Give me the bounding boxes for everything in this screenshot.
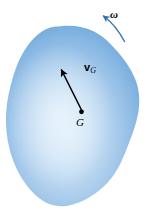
angular-velocity-label: ω bbox=[110, 9, 118, 20]
rigid-body-shape bbox=[6, 26, 139, 206]
center-of-mass-label: G bbox=[76, 117, 84, 128]
velocity-vector-label: vG bbox=[84, 62, 96, 75]
blob-highlight bbox=[6, 26, 139, 206]
velocity-subscript: G bbox=[90, 66, 96, 75]
figure-canvas bbox=[0, 0, 149, 213]
center-of-mass-dot bbox=[79, 109, 84, 114]
rigid-body-figure: vG G ω bbox=[0, 0, 149, 213]
